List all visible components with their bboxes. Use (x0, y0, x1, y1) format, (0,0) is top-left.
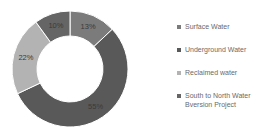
legend-label: Surface Water (185, 22, 229, 31)
legend-swatch-icon (177, 25, 181, 29)
segment-value-label: 13% (81, 22, 96, 31)
legend-item-reclaimed-water: Reclaimed water (177, 68, 276, 91)
donut-chart: 13%55%22%10% (0, 0, 150, 138)
legend-swatch-icon (177, 71, 181, 75)
legend-label: Underground Water (185, 45, 246, 54)
legend-label: South to North Water Bversion Project (185, 91, 261, 109)
legend-label: Reclaimed water (185, 68, 237, 77)
legend: Surface Water Underground Water Reclaime… (177, 22, 276, 114)
legend-item-surface-water: Surface Water (177, 22, 276, 45)
segment-value-label: 55% (88, 102, 103, 111)
legend-item-underground-water: Underground Water (177, 45, 276, 68)
segment-value-label: 10% (48, 21, 63, 30)
segment-value-label: 22% (18, 53, 33, 62)
legend-item-south-north-water: South to North Water Bversion Project (177, 91, 276, 114)
legend-swatch-icon (177, 48, 181, 52)
legend-swatch-icon (177, 94, 181, 98)
